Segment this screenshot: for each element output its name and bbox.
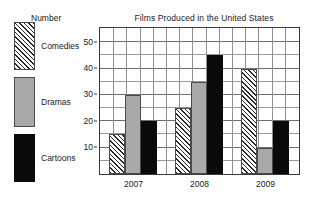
chart-figure: Films Produced in the United States Come… [0,0,316,204]
y-tick-label-20: 20 [84,116,93,126]
x-tick-label-2009: 2009 [256,179,275,189]
chart-title: Films Produced in the United States [104,13,304,23]
chart-axes: Number 1020304050 200720082009 [99,27,300,175]
gray-swatch-icon [14,77,35,127]
legend-label-dramas: Dramas [41,97,71,107]
x-tick-label-2008: 2008 [190,179,209,189]
x-tick-label-2007: 2007 [124,179,143,189]
y-tick-label-50: 50 [84,37,93,47]
y-tick-label-40: 40 [84,63,93,73]
legend-label-cartoons: Cartoons [41,153,76,163]
y-tick-label-10: 10 [84,142,93,152]
legend-item-dramas: Dramas [0,77,96,127]
y-tick-mark [94,94,97,95]
y-tick-mark [94,147,97,148]
y-tick-mark [94,41,97,42]
y-axis-caption: Number [31,13,61,23]
legend-item-cartoons: Cartoons [0,134,96,182]
y-tick-label-30: 30 [84,89,93,99]
legend-item-comedies: Comedies [0,22,96,70]
chart-legend: Comedies Dramas Cartoons [0,20,96,185]
y-tick-mark [94,120,97,121]
y-tick-mark [94,68,97,69]
hatch-swatch-icon [14,22,35,70]
black-swatch-icon [14,134,35,182]
legend-label-comedies: Comedies [41,41,79,51]
